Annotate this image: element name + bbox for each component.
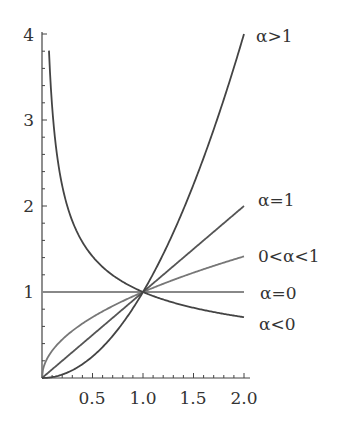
y-tick-label: 1: [23, 282, 34, 302]
label-alpha-eq-1: α=1: [258, 190, 295, 210]
label-alpha-eq-0: α=0: [260, 283, 297, 303]
axes: [42, 32, 250, 378]
x-tick-label: 2.0: [230, 388, 257, 408]
power-function-chart: 0.5 1.0 1.5 2.0 1 2 3 4 α>1 α=1 0<α<1 α=…: [0, 0, 356, 428]
x-tick-label: 1.0: [129, 388, 156, 408]
curve-labels: α>1 α=1 0<α<1 α=0 α<0: [256, 26, 320, 334]
x-tick-label: 1.5: [179, 388, 206, 408]
curve-alpha-gt-1: [42, 34, 244, 378]
y-tick-label: 2: [23, 196, 34, 216]
y-tick-labels: 1 2 3 4: [23, 25, 34, 302]
y-tick-label: 4: [23, 25, 34, 45]
curve-alpha-between-0-1: [42, 256, 244, 378]
label-alpha-lt-0: α<0: [259, 314, 296, 334]
curves: [42, 34, 244, 378]
label-alpha-between: 0<α<1: [258, 246, 320, 266]
x-tick-labels: 0.5 1.0 1.5 2.0: [78, 388, 257, 408]
label-alpha-gt-1: α>1: [256, 26, 293, 46]
y-tick-label: 3: [23, 110, 34, 130]
x-tick-label: 0.5: [78, 388, 105, 408]
curve-alpha-lt-0: [49, 51, 244, 318]
